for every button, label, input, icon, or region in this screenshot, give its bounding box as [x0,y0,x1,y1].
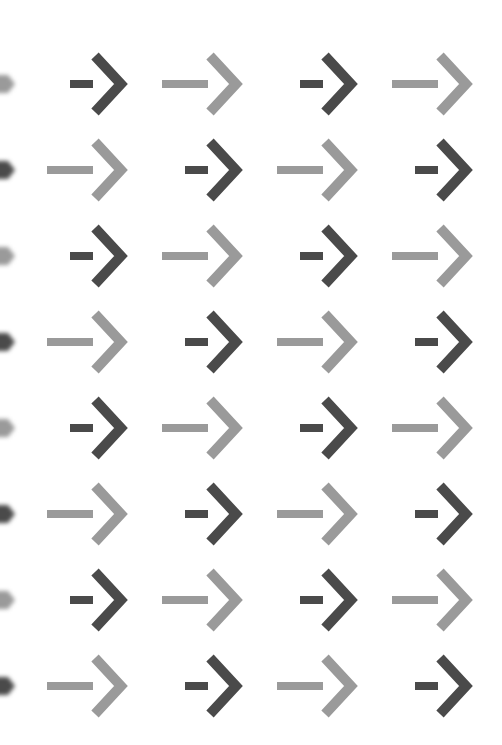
right-arrow-icon [298,564,363,636]
right-arrow-icon [45,306,133,378]
arrow-tip-icon [0,327,18,357]
right-arrow-icon [275,306,363,378]
right-arrow-icon [68,48,133,120]
right-arrow-icon [183,650,248,722]
right-arrow-icon [275,650,363,722]
right-arrow-icon [275,134,363,206]
arrow-tip-icon [0,671,18,701]
right-arrow-icon [160,48,248,120]
right-arrow-icon [68,564,133,636]
right-arrow-icon [68,220,133,292]
right-arrow-icon [413,650,478,722]
right-arrow-icon [390,564,478,636]
right-arrow-icon [160,220,248,292]
right-arrow-icon [160,392,248,464]
right-arrow-icon [68,392,133,464]
right-arrow-icon [183,478,248,550]
right-arrow-icon [275,478,363,550]
right-arrow-icon [160,564,248,636]
right-arrow-icon [390,220,478,292]
right-arrow-icon [413,134,478,206]
right-arrow-icon [298,220,363,292]
right-arrow-icon [298,48,363,120]
arrow-tip-icon [0,585,18,615]
right-arrow-icon [413,306,478,378]
arrow-tip-icon [0,413,18,443]
arrow-tip-icon [0,155,18,185]
right-arrow-icon [45,650,133,722]
right-arrow-icon [45,478,133,550]
arrow-tip-icon [0,69,18,99]
right-arrow-icon [183,134,248,206]
arrow-pattern-canvas [0,0,502,745]
right-arrow-icon [413,478,478,550]
right-arrow-icon [183,306,248,378]
right-arrow-icon [390,392,478,464]
arrow-tip-icon [0,499,18,529]
right-arrow-icon [390,48,478,120]
right-arrow-icon [45,134,133,206]
right-arrow-icon [298,392,363,464]
arrow-tip-icon [0,241,18,271]
